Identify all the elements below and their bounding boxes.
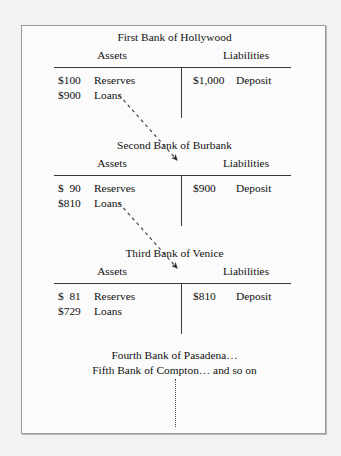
header-rule: [54, 67, 291, 68]
asset-amount: $900: [58, 88, 89, 103]
asset-amount: $810: [58, 196, 89, 211]
liability-label: Deposit: [231, 73, 271, 88]
column-header-liabilities: Liabilities: [188, 265, 304, 278]
figure-page: First Bank of Hollywood Assets Liabiliti…: [0, 0, 341, 456]
footer-line: Fifth Bank of Compton… and so on: [22, 363, 327, 378]
liability-label: Deposit: [231, 289, 271, 304]
liability-amount: $900: [193, 181, 231, 196]
bank-title: Second Bank of Burbank: [22, 139, 327, 152]
asset-entry: $810Loans: [58, 196, 122, 211]
bank-title: First Bank of Hollywood: [22, 31, 327, 44]
asset-label: Loans: [89, 88, 122, 103]
figure-frame: First Bank of Hollywood Assets Liabiliti…: [21, 25, 326, 434]
asset-amount: $ 81: [58, 289, 89, 304]
column-header-assets: Assets: [54, 157, 170, 170]
header-rule: [54, 283, 291, 284]
asset-amount: $ 90: [58, 181, 89, 196]
liability-entry: $810Deposit: [193, 289, 271, 304]
asset-amount: $100: [58, 73, 89, 88]
header-rule: [54, 175, 291, 176]
footer-line: Fourth Bank of Pasadena…: [22, 348, 327, 363]
column-header-liabilities: Liabilities: [188, 157, 304, 170]
column-header-assets: Assets: [54, 265, 170, 278]
asset-amount: $729: [58, 304, 89, 319]
asset-entry: $900Loans: [58, 88, 122, 103]
t-account-divider: [181, 67, 182, 118]
asset-entry: $100Reserves: [58, 73, 135, 88]
continuation-dotted-line: [175, 379, 176, 427]
asset-label: Reserves: [89, 181, 135, 196]
asset-label: Loans: [89, 304, 122, 319]
column-header-assets: Assets: [54, 49, 170, 62]
liability-amount: $1,000: [193, 73, 231, 88]
t-account-divider: [181, 283, 182, 334]
liability-entry: $1,000Deposit: [193, 73, 271, 88]
footer-text-group: Fourth Bank of Pasadena… Fifth Bank of C…: [22, 348, 327, 378]
asset-entry: $ 81Reserves: [58, 289, 135, 304]
column-header-liabilities: Liabilities: [188, 49, 304, 62]
asset-label: Loans: [89, 196, 122, 211]
liability-label: Deposit: [231, 181, 271, 196]
asset-label: Reserves: [89, 73, 135, 88]
t-account-divider: [181, 175, 182, 226]
asset-entry: $ 90Reserves: [58, 181, 135, 196]
asset-label: Reserves: [89, 289, 135, 304]
liability-amount: $810: [193, 289, 231, 304]
liability-entry: $900Deposit: [193, 181, 271, 196]
bank-title: Third Bank of Venice: [22, 247, 327, 260]
asset-entry: $729Loans: [58, 304, 122, 319]
